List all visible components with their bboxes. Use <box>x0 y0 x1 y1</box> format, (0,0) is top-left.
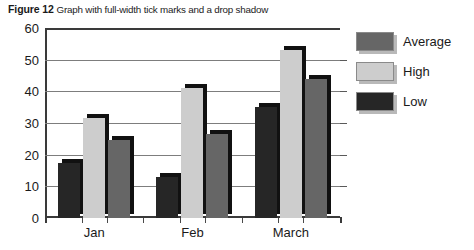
bar-march-average[interactable] <box>305 79 327 218</box>
bar-jan-low[interactable] <box>58 163 80 218</box>
bar-fill <box>108 140 130 218</box>
x-tick-mark <box>340 217 342 223</box>
figure-caption: Figure 12 Graph with full-width tick mar… <box>8 3 268 16</box>
bar-fill <box>206 134 228 218</box>
x-axis-category-label: Jan <box>84 225 105 240</box>
bar-fill <box>280 50 302 218</box>
bar-group-feb <box>143 28 241 218</box>
legend-swatch <box>356 62 394 81</box>
bar-fill <box>83 118 105 218</box>
bar-jan-average[interactable] <box>108 140 130 218</box>
bars-layer: JanFebMarch <box>45 28 340 218</box>
legend-swatch-wrap <box>356 32 394 51</box>
legend-swatch <box>356 92 394 111</box>
bar-group-march <box>242 28 340 218</box>
legend-label: Average <box>403 34 451 49</box>
y-axis-tick-label: 60 <box>25 21 39 36</box>
y-axis-tick-label: 40 <box>25 84 39 99</box>
y-axis-tick-label: 50 <box>25 52 39 67</box>
figure-caption-text: Graph with full-width tick marks and a d… <box>57 4 269 15</box>
x-axis-category-label: Feb <box>181 225 203 240</box>
legend-label: High <box>403 64 430 79</box>
chart-legend: AverageHighLow <box>356 26 468 116</box>
bar-fill <box>255 107 277 218</box>
legend-item-average[interactable]: Average <box>356 26 468 56</box>
bar-chart-figure: 0102030405060 JanFebMarch AverageHighLow <box>0 18 474 250</box>
bar-fill <box>181 88 203 218</box>
x-tick-mark <box>143 218 144 223</box>
legend-item-high[interactable]: High <box>356 56 468 86</box>
x-tick-mark-minor <box>303 218 304 223</box>
x-tick-mark <box>45 217 47 223</box>
y-tick-mark <box>340 91 347 92</box>
legend-label: Low <box>403 94 427 109</box>
legend-item-low[interactable]: Low <box>356 86 468 116</box>
y-tick-mark <box>340 123 347 124</box>
x-tick-mark-minor <box>278 218 279 223</box>
figure-number: Figure 12 <box>8 3 54 15</box>
y-axis-tick-label: 10 <box>25 179 39 194</box>
y-axis-tick-label: 30 <box>25 116 39 131</box>
bar-march-low[interactable] <box>255 107 277 218</box>
bar-march-high[interactable] <box>280 50 302 218</box>
bar-group-jan <box>45 28 143 218</box>
legend-swatch <box>356 32 394 51</box>
x-tick-mark-minor <box>180 218 181 223</box>
bar-fill <box>156 177 178 218</box>
bar-feb-average[interactable] <box>206 134 228 218</box>
legend-swatch-wrap <box>356 62 394 81</box>
bar-feb-low[interactable] <box>156 177 178 218</box>
y-axis-tick-label: 20 <box>25 147 39 162</box>
y-axis-tick-label: 0 <box>32 211 39 226</box>
bar-fill <box>305 79 327 218</box>
y-tick-mark <box>340 155 347 156</box>
bar-feb-high[interactable] <box>181 88 203 218</box>
x-tick-mark-minor <box>82 218 83 223</box>
x-tick-mark-minor <box>205 218 206 223</box>
bar-fill <box>58 163 80 218</box>
legend-swatch-wrap <box>356 92 394 111</box>
y-tick-mark <box>340 60 347 61</box>
x-tick-mark-minor <box>107 218 108 223</box>
x-tick-mark <box>242 218 243 223</box>
y-tick-mark <box>340 186 347 187</box>
bar-jan-high[interactable] <box>83 118 105 218</box>
plot-area: 0102030405060 JanFebMarch <box>45 28 340 218</box>
x-axis-category-label: March <box>273 225 309 240</box>
